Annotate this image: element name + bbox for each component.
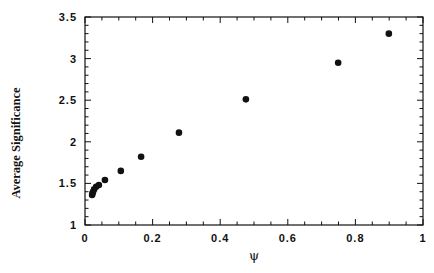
- data-point-marker: [243, 96, 250, 103]
- y-tick-label: 3.5: [59, 11, 77, 23]
- y-tick-label: 2.5: [59, 94, 77, 106]
- x-tick-label: 0.6: [279, 232, 297, 244]
- data-point-marker: [138, 153, 145, 160]
- x-tick-labels: 00.20.40.60.81: [81, 232, 426, 244]
- x-tick-label: 0: [81, 232, 88, 244]
- data-points: [89, 30, 392, 198]
- data-point-marker: [96, 182, 103, 189]
- x-tick-label: 0.8: [346, 232, 364, 244]
- x-tick-label: 0.2: [143, 232, 161, 244]
- x-axis-label: ψ: [249, 248, 259, 263]
- scatter-chart: 00.20.40.60.81 11.522.533.5 Average Sign…: [0, 0, 434, 273]
- y-tick-label: 2: [70, 136, 77, 148]
- y-tick-label: 1: [70, 219, 77, 231]
- y-axis-label: Average Significance: [9, 87, 23, 199]
- data-point-marker: [176, 129, 183, 136]
- plot-frame: [85, 17, 423, 225]
- y-tick-labels: 11.522.533.5: [59, 11, 77, 231]
- data-point-marker: [386, 30, 393, 37]
- y-tick-label: 1.5: [59, 177, 77, 189]
- y-tick-label: 3: [70, 53, 77, 65]
- data-point-marker: [335, 59, 342, 66]
- x-tick-label: 0.4: [211, 232, 229, 244]
- data-point-marker: [102, 177, 109, 184]
- data-point-marker: [118, 168, 125, 175]
- x-tick-label: 1: [419, 232, 426, 244]
- axis-ticks: [85, 17, 423, 225]
